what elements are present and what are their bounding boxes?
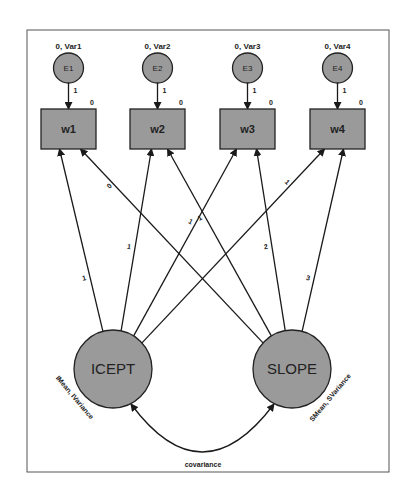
intercept-label: 0 <box>179 99 183 106</box>
observed-label: w1 <box>60 123 76 135</box>
error-param-label: 0, Var4 <box>325 42 351 51</box>
error-loading-label: 1 <box>343 87 347 94</box>
error-label: E2 <box>153 64 163 73</box>
latent-label: ICEPT <box>91 360 135 377</box>
error-param-label: 0, Var3 <box>235 42 261 51</box>
error-loading-label: 1 <box>253 87 257 94</box>
error-label: E1 <box>64 64 74 73</box>
error-loading-label: 1 <box>74 87 78 94</box>
observed-label: w4 <box>329 123 346 135</box>
error-label: E3 <box>243 64 253 73</box>
error-param-label: 0, Var2 <box>145 42 171 51</box>
intercept-label: 0 <box>90 99 94 106</box>
covariance-label: covariance <box>185 461 222 468</box>
observed-label: w2 <box>149 123 165 135</box>
sem-diagram: 11110123 covariance 0, Var1E11w100, Var2… <box>0 0 411 499</box>
error-label: E4 <box>333 64 343 73</box>
intercept-label: 0 <box>269 99 273 106</box>
observed-label: w3 <box>239 123 255 135</box>
intercept-label: 0 <box>359 99 363 106</box>
error-param-label: 0, Var1 <box>56 42 82 51</box>
error-loading-label: 1 <box>163 87 167 94</box>
latent-label: SLOPE <box>267 360 317 377</box>
